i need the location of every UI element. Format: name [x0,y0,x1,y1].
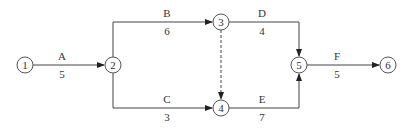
duration-activity-a: 5 [59,68,65,80]
network-diagram: A 5 B 6 C 3 D 4 E 7 F 5 1 2 3 4 5 6 [0,0,409,131]
label-activity-f: F [334,50,340,62]
label-activity-e: E [259,93,266,105]
node-5: 5 [291,57,307,73]
node-6: 6 [380,57,396,73]
node-2-label: 2 [110,59,116,71]
label-activity-d: D [258,7,266,19]
arrow-activity-b [113,22,212,57]
node-1-label: 1 [22,59,28,71]
node-3-label: 3 [218,16,224,28]
label-activity-a: A [58,50,66,62]
duration-activity-e: 7 [259,111,265,123]
node-2: 2 [105,57,121,73]
duration-activity-b: 6 [164,25,170,37]
node-5-label: 5 [296,59,302,71]
node-4: 4 [213,100,229,116]
label-activity-b: B [163,7,170,19]
node-6-label: 6 [385,59,391,71]
label-activity-c: C [163,93,170,105]
node-1: 1 [17,57,33,73]
duration-activity-d: 4 [259,25,265,37]
duration-activity-c: 3 [164,111,170,123]
node-3: 3 [213,14,229,30]
node-4-label: 4 [218,102,224,114]
duration-activity-f: 5 [334,68,340,80]
